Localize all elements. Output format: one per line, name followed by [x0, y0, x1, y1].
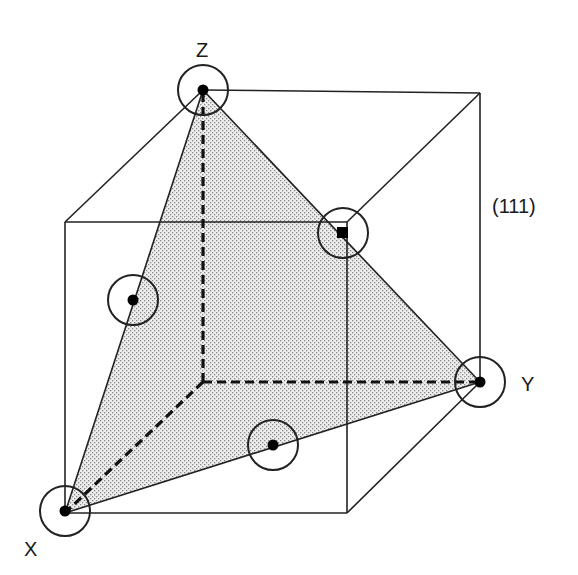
axis-label-z: Z	[196, 39, 208, 61]
axis-label-y: Y	[521, 373, 534, 395]
axis-label-x: X	[24, 538, 37, 560]
crystal-plane-diagram: Z Y X (111)	[0, 0, 578, 575]
plane-label: (111)	[492, 195, 536, 217]
